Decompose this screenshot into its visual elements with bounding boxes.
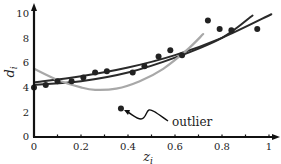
y-tick-label: 0 (23, 131, 29, 142)
svg-text:di: di (2, 66, 19, 77)
data-point (92, 70, 98, 76)
outlier-label: outlier (172, 115, 213, 129)
x-axis-label-sub: i (150, 156, 153, 164)
y-axis-label-main: d (2, 69, 17, 77)
data-point (217, 26, 223, 32)
data-point (156, 53, 162, 59)
y-axis-label: di (2, 66, 19, 77)
y-tick-label: 8 (23, 33, 29, 44)
data-point (179, 52, 185, 58)
fit-curves (34, 14, 271, 90)
x-tick-label: 1 (266, 141, 272, 152)
data-point (104, 68, 110, 74)
data-point (205, 17, 211, 23)
data-point (55, 78, 61, 84)
data-point (228, 27, 234, 33)
x-tick-label: 0.6 (167, 141, 183, 152)
data-point (80, 74, 86, 80)
data-points (31, 17, 260, 111)
data-point (254, 26, 260, 32)
fit-curve (34, 15, 253, 84)
x-tick-label: 0 (31, 141, 37, 152)
x-tick-label: 0.4 (120, 141, 136, 152)
x-axis-label: zi (142, 149, 153, 164)
data-point (69, 78, 75, 84)
y-tick-label: 4 (23, 82, 29, 93)
x-axis-arrow-icon (272, 134, 280, 140)
data-point (130, 70, 136, 76)
outlier-point (118, 105, 124, 111)
data-point (43, 82, 49, 88)
x-tick-label: 0.2 (73, 141, 89, 152)
svg-text:zi: zi (142, 149, 153, 164)
outlier-annotation: outlier (124, 110, 213, 129)
fit-curve (34, 14, 271, 82)
y-axis-label-sub: i (9, 66, 19, 69)
scatter-plot: 0 0.2 0.4 0.6 0.8 1 0 2 4 6 8 10 di zi (0, 0, 281, 164)
y-tick-label: 10 (16, 8, 29, 19)
data-point (141, 63, 147, 69)
data-point (167, 47, 173, 53)
x-tick-label: 0.8 (214, 141, 230, 152)
x-tick-labels: 0 0.2 0.4 0.6 0.8 1 (31, 141, 272, 152)
annotation-arrow (126, 110, 168, 121)
y-tick-label: 2 (23, 107, 29, 118)
x-axis-label-main: z (142, 149, 150, 164)
y-tick-labels: 0 2 4 6 8 10 (16, 8, 29, 142)
chart-container: 0 0.2 0.4 0.6 0.8 1 0 2 4 6 8 10 di zi (0, 0, 281, 164)
y-tick-label: 6 (23, 57, 29, 68)
y-axis-arrow-icon (31, 3, 37, 11)
